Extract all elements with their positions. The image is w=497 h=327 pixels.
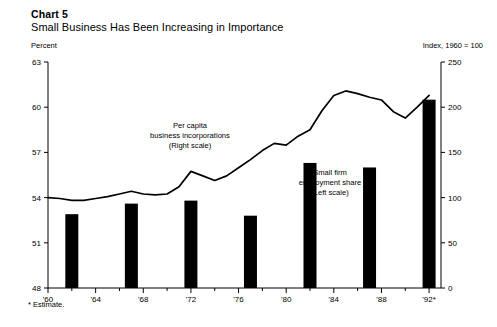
- x-axis-tick-label: '60: [43, 295, 54, 304]
- x-axis-tick-label: '88: [376, 295, 387, 304]
- bar: [423, 100, 436, 288]
- left-axis-tick-label: 48: [32, 284, 41, 293]
- x-axis-tick-label: '92*: [422, 295, 436, 304]
- right-axis-tick-label: 50: [448, 239, 457, 248]
- left-axis-tick-label: 63: [32, 58, 41, 67]
- right-axis-tick-label: 200: [448, 103, 462, 112]
- right-axis-tick-label: 0: [448, 284, 453, 293]
- bar: [363, 167, 376, 288]
- annotation-bar-series-row2: employment share: [299, 178, 361, 187]
- x-axis-tick-label: '68: [138, 295, 149, 304]
- annotation-line-series-row1: Per capita: [173, 121, 208, 130]
- x-axis-tick-label: '72: [186, 295, 197, 304]
- annotation-bar-series-row1: Small firm: [313, 168, 347, 177]
- annotation-bar-series-row3: (Left scale): [311, 188, 349, 197]
- bar: [184, 201, 197, 288]
- left-axis-tick-label: 51: [32, 239, 41, 248]
- left-axis-tick-label: 54: [32, 194, 41, 203]
- bar: [65, 214, 78, 288]
- left-axis-tick-label: 60: [32, 103, 41, 112]
- right-axis-tick-label: 100: [448, 194, 462, 203]
- annotation-line-series: Per capita business incorporations (Righ…: [150, 121, 230, 150]
- bar: [244, 216, 257, 288]
- x-axis-ticks: '60'64'68'72'76'80'84'88'92*: [43, 288, 436, 304]
- annotation-line-series-row3: (Right scale): [169, 141, 212, 150]
- annotation-line-series-row2: business incorporations: [150, 131, 230, 140]
- x-axis-tick-label: '76: [233, 295, 244, 304]
- right-axis-tick-label: 150: [448, 148, 462, 157]
- right-axis-ticks: 050100150200250: [441, 58, 462, 293]
- bar: [125, 204, 138, 288]
- plot-area: 485154576063 050100150200250 '60'64'68'7…: [0, 0, 497, 327]
- left-axis-tick-label: 57: [32, 148, 41, 157]
- left-axis-ticks: 485154576063: [32, 58, 48, 293]
- x-axis-tick-label: '64: [90, 295, 101, 304]
- right-axis-tick-label: 250: [448, 58, 462, 67]
- x-axis-tick-label: '84: [329, 295, 340, 304]
- chart-figure: Chart 5 Small Business Has Been Increasi…: [0, 0, 497, 327]
- x-axis-tick-label: '80: [281, 295, 292, 304]
